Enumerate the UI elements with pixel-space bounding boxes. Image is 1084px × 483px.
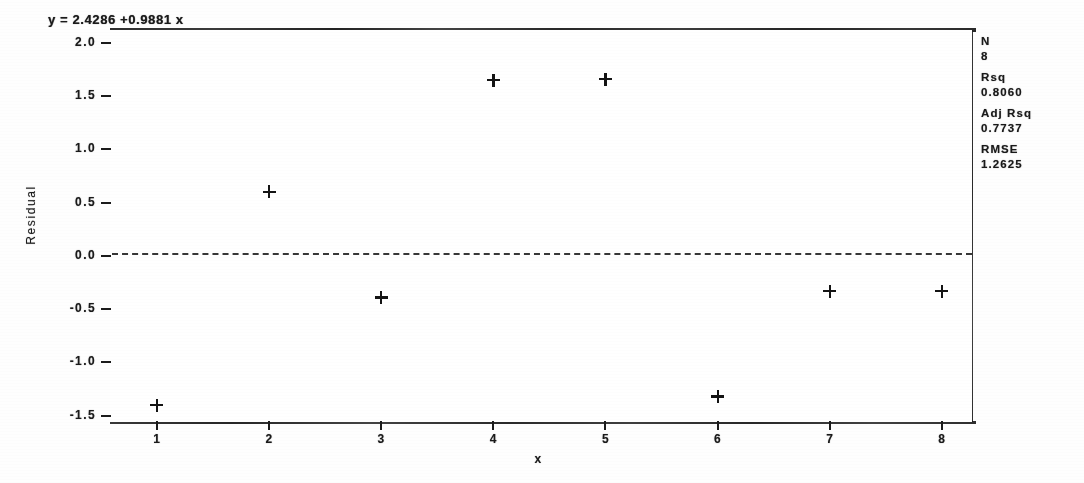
fit-statistics-panel: N 8 Rsq 0.8060 Adj Rsq 0.7737 RMSE 1.262… bbox=[981, 34, 1081, 178]
stat-rsq-label: Rsq bbox=[981, 70, 1081, 85]
y-axis-tick-label: 1.0 bbox=[38, 141, 96, 155]
fit-equation-label: y = 2.4286 +0.9881 x bbox=[48, 12, 184, 27]
x-axis-tick bbox=[604, 421, 606, 430]
x-axis-tick bbox=[156, 421, 158, 430]
x-axis-tick-label: 1 bbox=[145, 432, 169, 446]
stat-n-value: 8 bbox=[981, 49, 1081, 64]
stat-rmse: RMSE 1.2625 bbox=[981, 142, 1081, 171]
stat-adj-rsq-label: Adj Rsq bbox=[981, 106, 1081, 121]
x-axis-tick bbox=[268, 421, 270, 430]
y-axis-tick bbox=[101, 95, 111, 97]
x-axis-tick bbox=[717, 421, 719, 430]
x-axis-tick-label: 2 bbox=[257, 432, 281, 446]
x-axis-tick bbox=[829, 421, 831, 430]
stat-adj-rsq: Adj Rsq 0.7737 bbox=[981, 106, 1081, 135]
x-axis-tick bbox=[380, 421, 382, 430]
stat-rmse-value: 1.2625 bbox=[981, 157, 1081, 172]
data-point-marker bbox=[823, 285, 836, 298]
y-axis-tick-label: -0.5 bbox=[38, 301, 96, 315]
x-axis-tick-label: 8 bbox=[930, 432, 954, 446]
y-axis-tick bbox=[101, 415, 111, 417]
y-axis-tick-label: 1.5 bbox=[38, 88, 96, 102]
stat-n: N 8 bbox=[981, 34, 1081, 63]
y-axis-tick bbox=[101, 148, 111, 150]
x-axis-title: x bbox=[518, 452, 558, 466]
x-axis-tick-label: 6 bbox=[706, 432, 730, 446]
stat-adj-rsq-value: 0.7737 bbox=[981, 121, 1081, 136]
y-axis-tick bbox=[101, 308, 111, 310]
y-axis-tick-label: -1.0 bbox=[38, 354, 96, 368]
y-axis-tick bbox=[101, 202, 111, 204]
plot-area bbox=[110, 30, 972, 422]
y-axis-tick bbox=[101, 361, 111, 363]
stat-rsq: Rsq 0.8060 bbox=[981, 70, 1081, 99]
stat-rsq-value: 0.8060 bbox=[981, 85, 1081, 100]
zero-reference-line bbox=[112, 253, 972, 255]
residual-plot-figure: y = 2.4286 +0.9881 x 2.01.51.00.50.0-0.5… bbox=[0, 0, 1084, 483]
x-axis-tick bbox=[941, 421, 943, 430]
y-axis-title: Residual bbox=[24, 170, 38, 260]
x-axis-tick-label: 3 bbox=[369, 432, 393, 446]
y-axis-tick bbox=[101, 255, 111, 257]
data-point-marker bbox=[487, 74, 500, 87]
y-axis-tick-label: -1.5 bbox=[38, 408, 96, 422]
x-axis-tick-label: 7 bbox=[818, 432, 842, 446]
stat-n-label: N bbox=[981, 34, 1081, 49]
data-point-marker bbox=[375, 291, 388, 304]
x-axis-tick-label: 5 bbox=[593, 432, 617, 446]
y-axis-tick-label: 0.5 bbox=[38, 195, 96, 209]
data-point-marker bbox=[711, 390, 724, 403]
y-axis-tick-label: 0.0 bbox=[38, 248, 96, 262]
data-point-marker bbox=[935, 285, 948, 298]
y-axis-tick-label: 2.0 bbox=[38, 35, 96, 49]
y-axis-tick bbox=[101, 42, 111, 44]
data-point-marker bbox=[150, 399, 163, 412]
stat-rmse-label: RMSE bbox=[981, 142, 1081, 157]
x-axis-tick-label: 4 bbox=[481, 432, 505, 446]
data-point-marker bbox=[599, 73, 612, 86]
x-axis-tick bbox=[492, 421, 494, 430]
data-point-marker bbox=[263, 185, 276, 198]
